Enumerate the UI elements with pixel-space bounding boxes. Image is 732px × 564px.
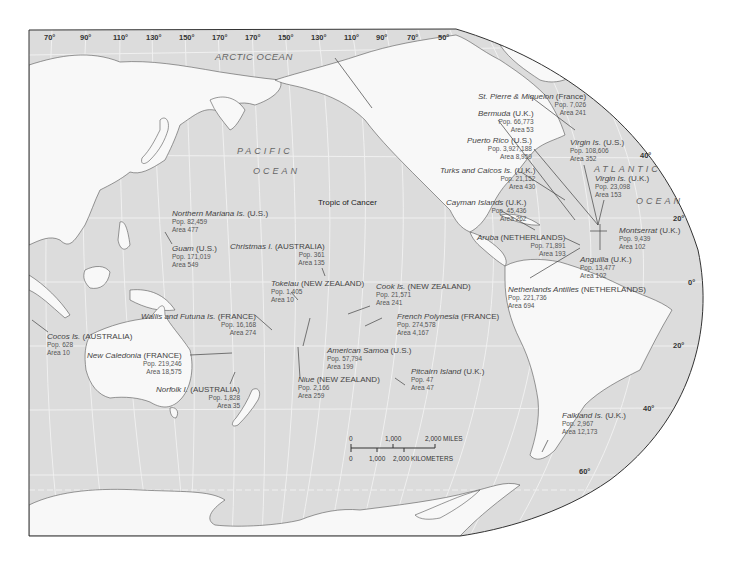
territory-owner: (U.K.) bbox=[659, 226, 680, 235]
label-netherlands-antilles: Netherlands Antilles (NETHERLANDS) Pop. … bbox=[508, 286, 646, 310]
label-guam: Guam (U.S.) Pop. 171,019 Area 549 bbox=[172, 245, 217, 269]
territory-name: Tokelau bbox=[271, 279, 299, 288]
ocean-label-pacific-2: OCEAN bbox=[253, 166, 300, 176]
label-french-polynesia: French Polynesia (FRANCE) Pop. 274,578 A… bbox=[397, 313, 499, 337]
territory-pop: Pop. 45,436 bbox=[446, 207, 526, 215]
ocean-label-arctic: ARCTIC OCEAN bbox=[215, 51, 293, 62]
lon-tick: 130° bbox=[146, 33, 162, 42]
lon-tick: 130° bbox=[311, 33, 327, 42]
label-tokelau: Tokelau (NEW ZEALAND) Pop. 1,405 Area 10 bbox=[271, 280, 364, 304]
territory-pop: Pop. 57,794 bbox=[327, 355, 411, 363]
territory-owner: (FRANCE) bbox=[144, 351, 182, 360]
territory-area: Area 274 bbox=[141, 329, 256, 337]
label-montserrat: Montserrat (U.K.) Pop. 9,439 Area 102 bbox=[619, 227, 680, 251]
territory-name: New Caledonia bbox=[87, 351, 141, 360]
territory-pop: Pop. 66,773 bbox=[478, 118, 534, 126]
territory-owner: (U.K.) bbox=[513, 109, 534, 118]
territory-area: Area 694 bbox=[508, 302, 646, 310]
territory-owner: (NEW ZEALAND) bbox=[408, 282, 471, 291]
territory-pop: Pop. 219,246 bbox=[87, 360, 182, 368]
label-northern-mariana: Northern Mariana Is. (U.S.) Pop. 82,459 … bbox=[172, 210, 268, 234]
label-wallis-futuna: Wallis and Futuna Is. (FRANCE) Pop. 16,1… bbox=[141, 313, 256, 337]
territory-pop: Pop. 23,098 bbox=[595, 183, 649, 191]
territory-area: Area 259 bbox=[298, 392, 380, 400]
territory-pop: Pop. 21,152 bbox=[440, 175, 535, 183]
territory-pop: Pop. 171,019 bbox=[172, 253, 217, 261]
label-cayman-islands: Cayman Islands (U.K.) Pop. 45,436 Area 2… bbox=[446, 199, 526, 223]
territory-owner: (NETHERLANDS) bbox=[581, 285, 646, 294]
label-niue: Niue (NEW ZEALAND) Pop. 2,166 Area 259 bbox=[298, 376, 380, 400]
lon-tick: 50° bbox=[438, 33, 449, 42]
territory-owner: (U.S.) bbox=[603, 138, 624, 147]
lon-tick: 70° bbox=[44, 33, 55, 42]
territory-area: Area 549 bbox=[172, 261, 217, 269]
lon-tick: 90° bbox=[80, 33, 91, 42]
territory-area: Area 8,959 bbox=[467, 153, 532, 161]
label-american-samoa: American Samoa (U.S.) Pop. 57,794 Area 1… bbox=[327, 347, 411, 371]
label-aruba: Aruba (NETHERLANDS) Pop. 71,891 Area 193 bbox=[477, 234, 566, 258]
territory-owner: (France) bbox=[556, 92, 586, 101]
territory-pop: Pop. 361 bbox=[230, 251, 325, 259]
label-falkland-islands: Falkland Is. (U.K.) Pop. 2,967 Area 12,1… bbox=[562, 412, 626, 436]
lon-tick: 90° bbox=[376, 33, 387, 42]
territory-owner: (U.K.) bbox=[506, 198, 527, 207]
map-canvas bbox=[0, 0, 732, 564]
label-norfolk-island: Norfolk I. (AUSTRALIA) Pop. 1,828 Area 3… bbox=[156, 386, 240, 410]
lon-tick: 110° bbox=[344, 33, 359, 42]
territory-name: Niue bbox=[298, 375, 314, 384]
territory-owner: (U.K.) bbox=[605, 411, 626, 420]
territory-name: Anguilla bbox=[580, 255, 608, 264]
territory-pop: Pop. 1,828 bbox=[156, 394, 240, 402]
territory-pop: Pop. 221,736 bbox=[508, 294, 646, 302]
territory-area: Area 135 bbox=[230, 259, 325, 267]
lat-tick: 40° bbox=[643, 404, 654, 413]
territory-pop: Pop. 1,405 bbox=[271, 288, 364, 296]
territory-area: Area 10 bbox=[271, 296, 364, 304]
territory-owner: (U.K.) bbox=[611, 255, 632, 264]
territory-name: Guam bbox=[172, 244, 194, 253]
territory-owner: (FRANCE) bbox=[218, 312, 256, 321]
label-virgin-is-us: Virgin Is. (U.S.) Pop. 108,606 Area 352 bbox=[570, 139, 624, 163]
territory-owner: (U.S.) bbox=[247, 209, 268, 218]
lat-tick: 40° bbox=[640, 151, 651, 160]
lat-tick: 60° bbox=[579, 467, 590, 476]
tropic-of-cancer-label: Tropic of Cancer bbox=[318, 199, 377, 207]
territory-area: Area 153 bbox=[595, 191, 649, 199]
territory-pop: Pop. 7,026 bbox=[478, 101, 586, 109]
territory-name: Cocos Is. bbox=[47, 332, 80, 341]
territory-name: Aruba bbox=[477, 233, 498, 242]
scale-km-1000: 1,000 bbox=[369, 455, 385, 462]
label-bermuda: Bermuda (U.K.) Pop. 66,773 Area 53 bbox=[478, 110, 534, 134]
territory-area: Area 241 bbox=[376, 299, 471, 307]
lon-tick: 110° bbox=[113, 33, 128, 42]
label-virgin-is-uk: Virgin Is. (U.K.) Pop. 23,098 Area 153 bbox=[595, 175, 649, 199]
ocean-label-atlantic: ATLANTIC bbox=[594, 164, 661, 174]
territory-pop: Pop. 2,166 bbox=[298, 384, 380, 392]
territory-area: Area 47 bbox=[411, 384, 484, 392]
territory-name: Bermuda bbox=[478, 109, 510, 118]
territory-name: French Polynesia bbox=[397, 312, 459, 321]
territory-name: Christmas I. bbox=[230, 242, 273, 251]
label-cook-islands: Cook Is. (NEW ZEALAND) Pop. 21,571 Area … bbox=[376, 283, 471, 307]
territory-area: Area 102 bbox=[580, 272, 632, 280]
label-christmas-island: Christmas I. (AUSTRALIA) Pop. 361 Area 1… bbox=[230, 243, 325, 267]
ocean-label-pacific: PACIFIC bbox=[237, 146, 293, 156]
territory-pop: Pop. 2,967 bbox=[562, 420, 626, 428]
territory-name: Falkland Is. bbox=[562, 411, 603, 420]
label-pitcairn-island: Pitcairn Island (U.K.) Pop. 47 Area 47 bbox=[411, 368, 484, 392]
territory-pop: Pop. 21,571 bbox=[376, 291, 471, 299]
territory-area: Area 193 bbox=[477, 250, 566, 258]
territory-owner: (NETHERLANDS) bbox=[501, 233, 566, 242]
territory-name: Wallis and Futuna Is. bbox=[141, 312, 216, 321]
lon-tick: 170° bbox=[212, 33, 228, 42]
territory-owner: (FRANCE) bbox=[461, 312, 499, 321]
lon-tick: 170° bbox=[245, 33, 261, 42]
territory-pop: Pop. 628 bbox=[47, 341, 132, 349]
label-anguilla: Anguilla (U.K.) Pop. 13,477 Area 102 bbox=[580, 256, 632, 280]
territory-pop: Pop. 82,459 bbox=[172, 218, 268, 226]
territory-area: Area 199 bbox=[327, 363, 411, 371]
lat-tick: 20° bbox=[673, 341, 684, 350]
label-new-caledonia: New Caledonia (FRANCE) Pop. 219,246 Area… bbox=[87, 352, 182, 376]
territory-name: Northern Mariana Is. bbox=[172, 209, 245, 218]
scale-km-0: 0 bbox=[349, 455, 353, 462]
